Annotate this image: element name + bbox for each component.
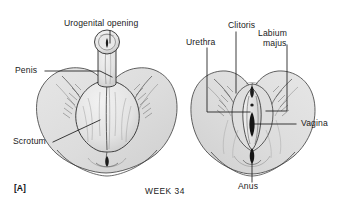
label-scrotum: Scrotum — [13, 136, 46, 146]
label-anus: Anus — [238, 181, 258, 191]
figure-caption-week: WEEK 34 — [145, 186, 185, 196]
female-genitalia-drawing — [191, 71, 315, 176]
label-penis: Penis — [15, 65, 37, 75]
label-vagina: Vagina — [301, 118, 328, 128]
label-clitoris: Clitoris — [228, 20, 255, 30]
figure-illustration — [0, 0, 349, 208]
label-labium-majus: Labium majus — [258, 28, 294, 48]
urethra-mark — [250, 103, 253, 106]
label-labium-majus-line1: Labium — [258, 28, 294, 38]
label-urethra: Urethra — [186, 37, 216, 47]
panel-tag-a: [A] — [14, 183, 26, 193]
anatomical-figure: Urogenital opening Penis Scrotum Urethra… — [0, 0, 349, 208]
male-genitalia-drawing — [37, 30, 177, 176]
label-urogenital-opening: Urogenital opening — [64, 18, 138, 28]
label-labium-majus-line2: majus — [258, 38, 294, 48]
